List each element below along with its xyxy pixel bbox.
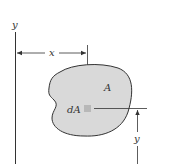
y-dimension-label: y	[133, 133, 140, 144]
y-axis-label: y	[11, 19, 18, 30]
area-element	[84, 105, 91, 112]
area-element-label: dA	[67, 104, 81, 115]
area-label: A	[103, 82, 111, 93]
x-dimension-label: x	[49, 47, 55, 58]
area-shape	[49, 65, 132, 137]
centroid-diagram: y x A dA y	[0, 0, 186, 164]
